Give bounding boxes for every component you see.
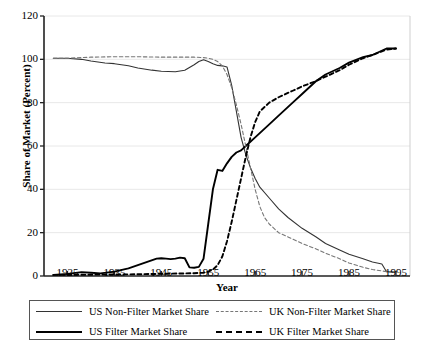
legend-item-us-non-filter[interactable]: US Non-Filter Market Share: [30, 301, 216, 321]
plot-area: [0, 0, 424, 300]
legend-item-uk-non-filter[interactable]: UK Non-Filter Market Share: [216, 301, 394, 321]
x-tick-label: 1985: [326, 266, 372, 278]
line-swatch-icon: [36, 306, 82, 316]
legend-label: UK Filter Market Share: [269, 326, 369, 337]
x-tick-label: 1955: [185, 266, 231, 278]
x-tick-label: 1935: [91, 266, 137, 278]
legend-label: US Non-Filter Market Share: [89, 306, 209, 317]
y-tick-label: 100: [4, 52, 38, 64]
y-tick-label: 40: [4, 182, 38, 194]
chart-legend: US Non-Filter Market Share UK Non-Filter…: [29, 300, 395, 340]
x-tick-label: 1995: [373, 266, 419, 278]
legend-row: US Filter Market Share UK Filter Market …: [30, 321, 394, 341]
legend-label: US Filter Market Share: [89, 326, 187, 337]
line-swatch-icon: [216, 306, 262, 316]
series-line: [53, 49, 396, 275]
line-swatch-icon: [216, 326, 262, 336]
x-tick-label: 1925: [44, 266, 90, 278]
legend-label: UK Non-Filter Market Share: [269, 306, 391, 317]
legend-item-uk-filter[interactable]: UK Filter Market Share: [216, 321, 394, 341]
x-tick-label: 1945: [138, 266, 184, 278]
y-tick-label: 80: [4, 96, 38, 108]
x-tick-label: 1965: [232, 266, 278, 278]
legend-row: US Non-Filter Market Share UK Non-Filter…: [30, 301, 394, 321]
line-swatch-icon: [36, 326, 82, 336]
y-tick-label: 120: [4, 9, 38, 21]
y-tick-label: 0: [4, 269, 38, 281]
legend-item-us-filter[interactable]: US Filter Market Share: [30, 321, 216, 341]
x-tick-label: 1975: [279, 266, 325, 278]
series-line: [53, 57, 396, 273]
series-line: [53, 49, 396, 275]
series-line: [53, 58, 396, 272]
chart-figure: Share of Market (Percent) Year 020406080…: [0, 0, 424, 345]
y-tick-label: 60: [4, 139, 38, 151]
y-tick-label: 20: [4, 226, 38, 238]
